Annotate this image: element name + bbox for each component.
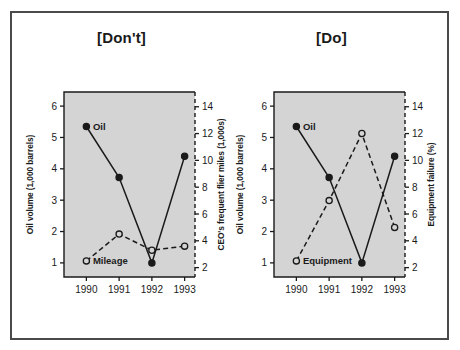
- figure-border: [Don't] 12345624681012141990199119921993…: [10, 11, 449, 340]
- svg-text:Oil: Oil: [303, 121, 316, 132]
- svg-text:2: 2: [51, 226, 57, 237]
- svg-text:1992: 1992: [141, 284, 164, 295]
- svg-text:1991: 1991: [318, 284, 341, 295]
- svg-text:8: 8: [412, 182, 418, 193]
- svg-text:8: 8: [202, 182, 208, 193]
- svg-text:3: 3: [51, 195, 57, 206]
- svg-text:4: 4: [412, 235, 418, 246]
- svg-text:4: 4: [261, 163, 267, 174]
- panel-do: [Do] 12345624681012141990199119921993Oil…: [222, 13, 441, 342]
- svg-text:Oil volume (1,000 barrels): Oil volume (1,000 barrels): [25, 135, 35, 235]
- svg-text:12: 12: [202, 128, 214, 139]
- svg-text:1990: 1990: [75, 284, 98, 295]
- svg-text:Equipment failure (%): Equipment failure (%): [426, 142, 436, 226]
- svg-text:14: 14: [412, 101, 424, 112]
- svg-text:5: 5: [51, 132, 57, 143]
- chart-do: 12345624681012141990199119921993Oil volu…: [222, 13, 441, 342]
- svg-text:10: 10: [202, 155, 214, 166]
- svg-text:6: 6: [202, 209, 208, 220]
- svg-text:2: 2: [261, 226, 267, 237]
- chart-dont: 12345624681012141990199119921993Oil volu…: [12, 13, 231, 342]
- svg-text:1993: 1993: [174, 284, 197, 295]
- svg-text:1: 1: [261, 257, 267, 268]
- svg-text:4: 4: [202, 235, 208, 246]
- svg-text:Equipment: Equipment: [303, 255, 353, 266]
- svg-text:1992: 1992: [351, 284, 374, 295]
- svg-text:14: 14: [202, 101, 214, 112]
- panel-dont: [Don't] 12345624681012141990199119921993…: [12, 13, 231, 342]
- svg-text:1993: 1993: [384, 284, 407, 295]
- svg-text:6: 6: [412, 209, 418, 220]
- svg-text:10: 10: [412, 155, 424, 166]
- svg-text:Mileage: Mileage: [93, 255, 128, 266]
- svg-text:2: 2: [412, 262, 418, 273]
- svg-text:6: 6: [261, 101, 267, 112]
- svg-text:12: 12: [412, 128, 424, 139]
- svg-text:Oil: Oil: [93, 121, 106, 132]
- svg-text:5: 5: [261, 132, 267, 143]
- svg-text:1991: 1991: [108, 284, 131, 295]
- svg-text:1: 1: [51, 257, 57, 268]
- svg-text:4: 4: [51, 163, 57, 174]
- svg-text:1990: 1990: [285, 284, 308, 295]
- figure-root: [Don't] 12345624681012141990199119921993…: [0, 0, 460, 350]
- svg-text:6: 6: [51, 101, 57, 112]
- svg-text:3: 3: [261, 195, 267, 206]
- svg-text:2: 2: [202, 262, 208, 273]
- svg-text:Oil volume (1,000 barrels): Oil volume (1,000 barrels): [235, 135, 245, 235]
